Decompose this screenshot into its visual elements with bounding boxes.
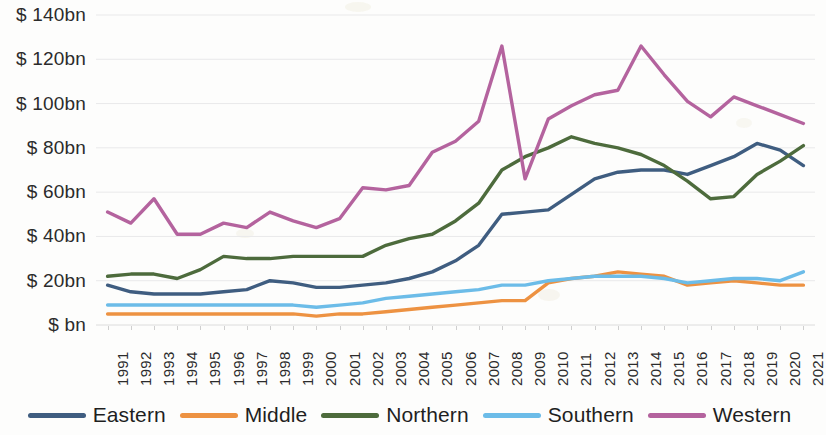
- x-axis-tick: [571, 326, 572, 330]
- x-axis-labels: 1991199219931994199519961997199819992000…: [96, 330, 815, 392]
- x-axis-tick-label: 2001: [346, 351, 363, 386]
- legend-label: Middle: [245, 403, 307, 427]
- x-axis-tick: [386, 326, 387, 330]
- series-line-southern: [108, 272, 804, 307]
- y-axis-tick-label: $ 40bn: [27, 225, 86, 247]
- x-axis-tick-label: 1994: [183, 351, 200, 386]
- x-axis-tick-label: 2005: [438, 351, 455, 386]
- x-axis-tick-label: 2013: [624, 351, 641, 386]
- chart-legend: EasternMiddleNorthernSouthernWestern: [0, 398, 819, 432]
- legend-swatch-icon: [483, 413, 541, 418]
- y-axis-tick-label: $ 80bn: [27, 137, 86, 159]
- x-axis-tick-label: 2009: [531, 351, 548, 386]
- legend-item-middle[interactable]: Middle: [180, 403, 307, 427]
- plot-area: [96, 6, 815, 328]
- x-axis-tick-label: 2010: [554, 351, 571, 386]
- x-axis-tick: [780, 326, 781, 330]
- x-axis-tick-label: 2004: [415, 351, 432, 386]
- x-axis-tick: [595, 326, 596, 330]
- x-axis-tick-label: 2006: [462, 351, 479, 386]
- x-axis-tick: [154, 326, 155, 330]
- y-axis-tick-label: $ 100bn: [16, 93, 86, 115]
- x-axis-tick: [803, 326, 804, 330]
- y-axis-tick-label: $ 20bn: [27, 270, 86, 292]
- legend-item-northern[interactable]: Northern: [321, 403, 469, 427]
- x-axis-tick: [711, 326, 712, 330]
- x-axis-tick-label: 1993: [160, 351, 177, 386]
- x-axis-tick-label: 2002: [369, 351, 386, 386]
- x-axis-tick-label: 2003: [392, 351, 409, 386]
- x-axis-tick-label: 1998: [276, 351, 293, 386]
- x-axis-tick: [224, 326, 225, 330]
- legend-label: Western: [713, 403, 792, 427]
- series-line-northern: [108, 137, 804, 279]
- y-axis-tick-label: $ 60bn: [27, 181, 86, 203]
- x-axis-tick-label: 2008: [508, 351, 525, 386]
- x-axis-tick-label: 2012: [601, 351, 618, 386]
- legend-swatch-icon: [321, 413, 379, 418]
- y-axis-tick-label: $ 140bn: [16, 4, 86, 26]
- x-axis-tick-label: 1995: [206, 351, 223, 386]
- y-axis-tick-label: $ 120bn: [16, 48, 86, 70]
- legend-label: Southern: [548, 403, 634, 427]
- x-axis-tick-label: 2011: [577, 353, 594, 386]
- x-axis-tick-label: 2007: [485, 351, 502, 386]
- x-axis-tick-label: 1997: [253, 351, 270, 386]
- x-axis-tick: [525, 326, 526, 330]
- x-axis-tick: [108, 326, 109, 330]
- x-axis-tick-label: 1992: [137, 351, 154, 386]
- x-axis-tick-label: 2015: [670, 351, 687, 386]
- legend-swatch-icon: [180, 413, 238, 418]
- x-axis-tick: [131, 326, 132, 330]
- x-axis-tick: [270, 326, 271, 330]
- legend-item-southern[interactable]: Southern: [483, 403, 634, 427]
- series-line-eastern: [108, 143, 804, 294]
- x-axis-tick: [548, 326, 549, 330]
- x-axis-tick: [618, 326, 619, 330]
- x-axis-tick: [456, 326, 457, 330]
- x-axis-tick: [734, 326, 735, 330]
- legend-item-eastern[interactable]: Eastern: [28, 403, 166, 427]
- x-axis-tick-label: 2016: [693, 351, 710, 386]
- x-axis-tick-label: 2017: [717, 351, 734, 386]
- series-canvas: [96, 6, 815, 328]
- legend-label: Northern: [386, 403, 469, 427]
- x-axis-tick-label: 1991: [114, 351, 131, 386]
- x-axis-tick: [664, 326, 665, 330]
- x-axis-tick: [200, 326, 201, 330]
- y-axis-labels: $ 140bn$ 120bn$ 100bn$ 80bn$ 60bn$ 40bn$…: [0, 0, 92, 345]
- series-line-western: [108, 46, 804, 234]
- legend-swatch-icon: [28, 413, 86, 418]
- x-axis-tick-label: 2014: [647, 351, 664, 386]
- x-axis-tick-label: 2019: [763, 351, 780, 386]
- x-axis-tick-label: 1999: [299, 351, 316, 386]
- x-axis-tick: [432, 326, 433, 330]
- x-axis-tick: [247, 326, 248, 330]
- x-axis-tick-label: 2021: [809, 351, 826, 386]
- x-axis-tick: [177, 326, 178, 330]
- x-axis-tick: [502, 326, 503, 330]
- x-axis-tick: [316, 326, 317, 330]
- y-axis-tick-label: $ bn: [48, 314, 86, 336]
- x-axis-tick: [340, 326, 341, 330]
- x-axis-tick: [293, 326, 294, 330]
- x-axis-tick: [641, 326, 642, 330]
- x-axis-tick: [479, 326, 480, 330]
- x-axis-tick: [687, 326, 688, 330]
- legend-swatch-icon: [648, 413, 706, 418]
- x-axis-tick-label: 2018: [740, 351, 757, 386]
- x-axis-tick: [363, 326, 364, 330]
- legend-label: Eastern: [93, 403, 166, 427]
- x-axis-tick: [409, 326, 410, 330]
- x-axis-tick-label: 2000: [322, 351, 339, 386]
- x-axis-tick: [757, 326, 758, 330]
- legend-item-western[interactable]: Western: [648, 403, 792, 427]
- x-axis-tick-label: 1996: [230, 351, 247, 386]
- x-axis-tick-label: 2020: [786, 351, 803, 386]
